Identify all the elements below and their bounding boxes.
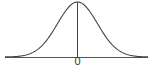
mean-label: 0	[73, 55, 82, 67]
normal-curve	[5, 2, 148, 57]
